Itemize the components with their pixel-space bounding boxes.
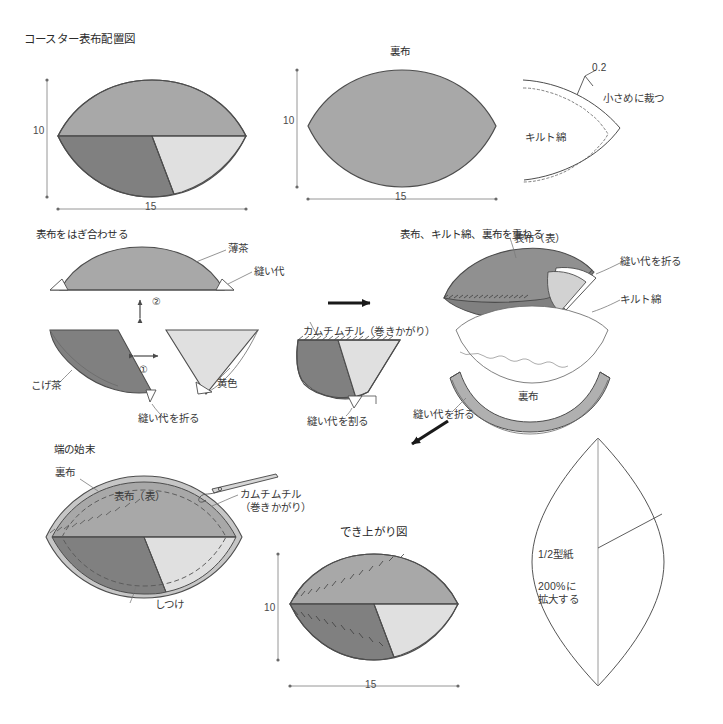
cut-smaller-note: 小さめに裁つ — [603, 92, 664, 105]
label-open-seam: 縫い代を割る — [307, 415, 368, 428]
joined-seam-allowance — [348, 396, 362, 408]
leader-batting — [592, 300, 620, 312]
page-title: コースター表布配置図 — [24, 33, 135, 46]
joined-seam-bracket — [362, 396, 376, 404]
arrow-down-left-to-finish — [412, 421, 448, 444]
dim-height-label: 10 — [264, 601, 276, 614]
dim-height-label: 10 — [33, 124, 45, 137]
piece-dark-brown — [50, 330, 152, 393]
panel-top-right-batting — [523, 70, 620, 182]
diagram-vector-layer — [0, 0, 723, 724]
stack-batting — [456, 306, 608, 383]
leader-fold-seam-top — [596, 262, 622, 274]
panel-top-mid-shape — [297, 70, 496, 199]
region-light-brown — [58, 80, 246, 136]
batting-gap-value: 0.2 — [592, 61, 607, 74]
leader-finish-backing — [80, 479, 98, 491]
label-enlarge-scale: 200%に 拡大する — [538, 580, 579, 606]
step-marker-1: ① — [139, 363, 148, 376]
label-light-brown: 薄茶 — [228, 242, 248, 255]
backing-fabric-shape — [308, 70, 496, 187]
leader-light-brown — [196, 250, 226, 262]
panel-bottom-center-finished — [278, 554, 458, 686]
label-yellow: 黄色 — [217, 377, 237, 390]
dim-width-label: 15 — [145, 200, 157, 213]
label-quilt-batting: キルト綿 — [620, 293, 661, 306]
label-top-fabric-right-side: 表布（表） — [514, 232, 565, 245]
label-fold-seam-bottom: 縫い代を折る — [413, 408, 474, 421]
dim-height-label: 10 — [283, 114, 295, 127]
leader-finish-stitch — [212, 495, 238, 506]
gap-indicator — [577, 76, 593, 95]
backing-fabric-label: 裏布 — [390, 45, 410, 58]
label-dark-brown: こげ茶 — [31, 379, 62, 392]
label-top-fabric-right-side: 表布（表） — [114, 490, 165, 503]
label-whip-stitch: カムチムチル（巻きかがり） — [303, 325, 436, 338]
diagram-sheet: コースター表布配置図 10 15 裏布 10 15 0.2 小さめに裁つ キルト… — [0, 0, 723, 724]
leader-seam — [228, 272, 252, 284]
panel-bottom-right-pattern — [532, 438, 664, 686]
label-whip-stitch: カムチムチル （巻きかがり） — [240, 488, 311, 514]
panel-top-left-shape — [47, 80, 246, 209]
panel-mid-left-pieces — [50, 247, 258, 418]
finished-diagram-title: でき上がり図 — [340, 526, 407, 539]
label-seam-allowance: 縫い代 — [254, 265, 285, 278]
dim-width-label: 15 — [365, 678, 377, 691]
piece-light-brown — [60, 247, 224, 290]
quilt-batting-label: キルト綿 — [525, 131, 566, 144]
label-half-pattern: 1/2型紙 — [538, 548, 574, 561]
step-marker-2: ② — [152, 295, 161, 308]
seam-allowance-fold-dark — [146, 390, 156, 402]
dim-width-label: 15 — [395, 190, 407, 203]
label-basting: しつけ — [155, 598, 185, 611]
label-fold-seam-top: 縫い代を折る — [620, 255, 681, 268]
section-heading-piecing: 表布をはぎ合わせる — [36, 228, 128, 241]
label-fold-seam-allowance: 縫い代を折る — [138, 412, 199, 425]
piece-yellow — [166, 330, 258, 394]
section-heading-edge-finish: 端の始末 — [54, 443, 95, 456]
label-backing-fabric: 裏布 — [55, 466, 75, 479]
label-backing-fabric: 裏布 — [518, 390, 538, 403]
panel-mid-right-stack — [444, 238, 622, 434]
finished-light-brown — [290, 554, 458, 604]
